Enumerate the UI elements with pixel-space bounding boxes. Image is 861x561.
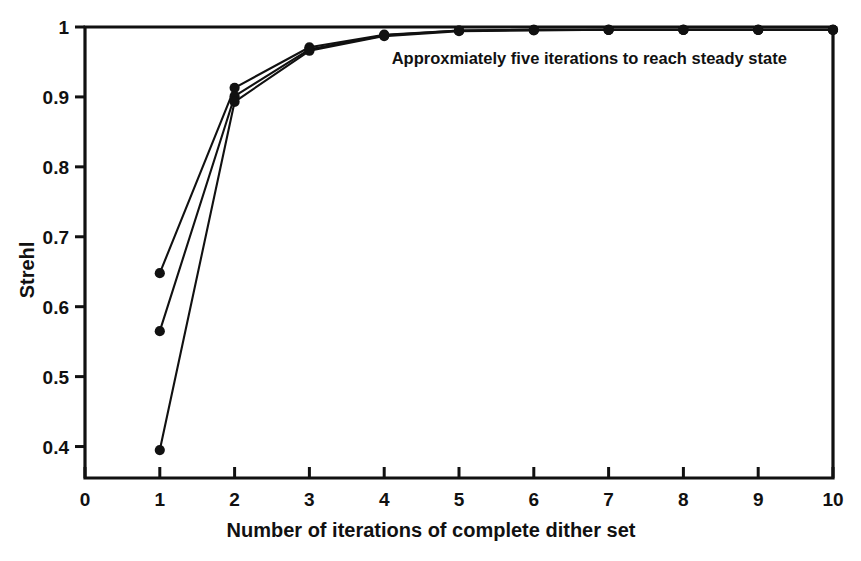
series-marker (155, 445, 165, 455)
x-tick-label: 2 (229, 489, 240, 510)
x-axis-title: Number of iterations of complete dither … (227, 519, 636, 541)
y-tick-label: 0.4 (43, 437, 70, 458)
x-tick-label: 7 (603, 489, 614, 510)
series-marker (678, 25, 688, 35)
x-tick-label: 8 (678, 489, 689, 510)
y-tick-label: 0.8 (43, 157, 69, 178)
series-marker (230, 97, 240, 107)
series-marker (454, 26, 464, 36)
chart-annotations: Approxmiately five iterations to reach s… (392, 49, 787, 67)
series-marker (155, 326, 165, 336)
strehl-convergence-figure: 0.40.50.60.70.80.91 012345678910 Approxm… (0, 0, 861, 561)
chart-canvas: 0.40.50.60.70.80.91 012345678910 Approxm… (0, 0, 861, 561)
y-tick-label: 0.6 (43, 297, 69, 318)
x-tick-label: 4 (379, 489, 390, 510)
y-axis-title: Strehl (16, 242, 38, 299)
x-tick-label: 3 (304, 489, 315, 510)
series-marker (304, 46, 314, 56)
series-marker (529, 25, 539, 35)
x-tick-label: 9 (753, 489, 764, 510)
series-marker (379, 31, 389, 41)
x-tick-label: 10 (822, 489, 843, 510)
x-tick-label: 0 (80, 489, 91, 510)
y-tick-label: 0.5 (43, 367, 70, 388)
x-tick-label: 6 (529, 489, 540, 510)
series-marker (604, 25, 614, 35)
series-marker (753, 25, 763, 35)
series-marker (828, 25, 838, 35)
annotation-label: Approxmiately five iterations to reach s… (392, 49, 787, 67)
series-marker (155, 268, 165, 278)
x-tick-label: 5 (454, 489, 465, 510)
y-tick-label: 1 (58, 17, 69, 38)
y-tick-label: 0.9 (43, 87, 69, 108)
y-tick-label: 0.7 (43, 227, 69, 248)
x-tick-label: 1 (155, 489, 166, 510)
